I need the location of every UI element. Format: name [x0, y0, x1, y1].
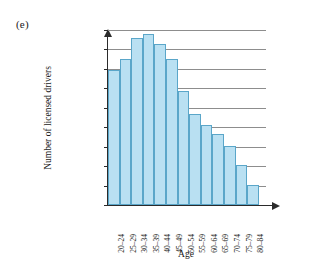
panel-label: (e) [16, 18, 29, 30]
bar [236, 165, 248, 205]
x-axis-tick-label: 30–34 [140, 234, 149, 253]
x-axis-tick-label: 65–69 [221, 234, 230, 253]
x-axis-tick-label: 80–84 [256, 234, 265, 253]
y-axis-tick [104, 30, 108, 31]
bar [178, 91, 190, 205]
y-axis-tick [104, 49, 108, 50]
x-axis-tick-label: 20–24 [117, 234, 126, 253]
plot-area: 050,000100,000150,000200,000250,000300,0… [107, 24, 279, 205]
x-axis-arrow-icon [272, 202, 280, 210]
x-axis-title: Age [178, 249, 194, 259]
bar [224, 146, 236, 205]
x-axis-tick-label: 75–79 [245, 234, 254, 253]
x-axis-tick-label: 35–39 [152, 234, 161, 253]
bar [247, 185, 259, 205]
x-axis-tick-label: 60–64 [210, 234, 219, 253]
bar [189, 114, 201, 205]
bar [143, 34, 155, 205]
bar [131, 38, 143, 205]
x-axis-line [107, 205, 273, 206]
bar [120, 59, 132, 205]
x-axis-tick-label: 40–44 [163, 234, 172, 253]
histogram-figure: (e) Number of licensed drivers 050,00010… [0, 0, 310, 271]
x-axis-tick-label: 55–59 [198, 234, 207, 253]
x-axis-tick-label: 25–29 [129, 234, 138, 253]
y-axis-title: Number of licensed drivers [43, 66, 53, 170]
y-axis-tick [104, 205, 108, 206]
bar [108, 70, 120, 205]
bar [212, 134, 224, 205]
bar [154, 44, 166, 205]
bar [166, 59, 178, 205]
bar [201, 125, 213, 205]
x-axis-tick-label: 70–74 [233, 234, 242, 253]
gridline [108, 30, 266, 31]
